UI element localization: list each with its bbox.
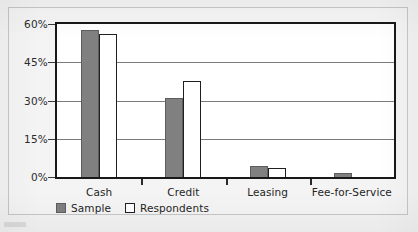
gridline [57,24,394,25]
y-tick-label: 60% [8,19,48,30]
x-category-label: Fee-for-Service [310,185,394,199]
legend-item-sample: Sample [56,203,111,214]
x-category-label: Leasing [226,185,310,199]
x-category-label: Cash [57,185,141,199]
scanned-figure-page: 0%15%30%45%60% CashCreditLeasingFee-for-… [0,0,418,232]
chart-legend: SampleRespondents [56,203,209,214]
y-tick-mark [48,177,55,178]
y-tick-label: 30% [8,95,48,106]
y-tick-label: 45% [8,57,48,68]
y-tick-mark [48,139,55,140]
y-tick-mark [48,62,55,63]
bar-chart: 0%15%30%45%60% CashCreditLeasingFee-for-… [8,7,408,215]
bar-cash-respondents [99,34,117,177]
bar-leasing-respondents [268,168,286,177]
y-axis-ticks [48,22,55,179]
bar-leasing-sample [250,166,268,177]
x-axis-labels: CashCreditLeasingFee-for-Service [55,185,396,201]
x-category-label: Credit [141,185,225,199]
legend-label: Sample [71,203,111,214]
bar-fee-for-service-sample [334,173,352,177]
y-tick-mark [48,101,55,102]
bar-credit-sample [165,98,183,177]
bar-credit-respondents [183,81,201,177]
y-tick-mark [48,24,55,25]
y-tick-label: 0% [8,172,48,183]
plot-surface [57,24,394,177]
scan-artifact [4,222,26,227]
y-axis-labels: 0%15%30%45%60% [8,22,48,179]
legend-item-respondents: Respondents [125,203,209,214]
y-tick-label: 15% [8,134,48,145]
legend-swatch-icon [56,203,66,213]
legend-label: Respondents [140,203,209,214]
bar-cash-sample [81,30,99,177]
plot-area [55,22,396,179]
legend-swatch-icon [125,203,135,213]
